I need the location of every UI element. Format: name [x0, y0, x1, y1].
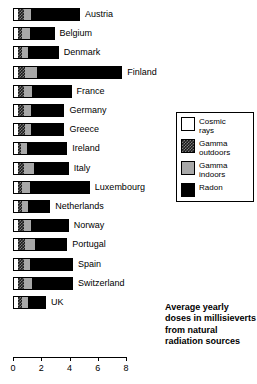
bar-row: France: [0, 83, 140, 102]
legend-item-gamma-outdoors: Gamma outdoors: [181, 139, 250, 157]
cosmic-rays-swatch-icon: [181, 117, 195, 131]
bar-row: Switzerland: [0, 275, 140, 294]
country-label-belgium: Belgium: [60, 26, 93, 41]
bar-row: Finland: [0, 64, 140, 83]
bar-segment-radon: [31, 9, 79, 20]
bar-ireland: [13, 142, 67, 155]
chart-caption: Average yearly doses in millisieverts fr…: [165, 302, 257, 348]
bar-row: Luxembourg: [0, 179, 140, 198]
bar-netherlands: [13, 200, 50, 213]
x-axis-tick: [13, 357, 14, 361]
bar-austria: [13, 8, 80, 21]
country-label-austria: Austria: [85, 7, 113, 22]
country-label-germany: Germany: [69, 103, 106, 118]
bar-row: Norway: [0, 217, 140, 236]
bar-denmark: [13, 46, 59, 59]
bar-segment-gamma_indoors: [22, 182, 29, 193]
bar-segment-gamma_outdoors: [18, 124, 25, 135]
country-label-france: France: [77, 84, 105, 99]
country-label-ireland: Ireland: [72, 141, 100, 156]
chart-legend: Cosmic rays Gamma outdoors Gamma indoors…: [176, 112, 254, 202]
bar-segment-radon: [28, 297, 45, 308]
bar-segment-gamma_indoors: [24, 220, 31, 231]
bar-row: Netherlands: [0, 198, 140, 217]
x-axis-tick-label: 0: [10, 363, 15, 374]
legend-label-gamma-indoors: Gamma indoors: [199, 161, 227, 179]
bar-segment-gamma_indoors: [24, 86, 32, 97]
bar-segment-radon: [30, 28, 54, 39]
country-label-spain: Spain: [78, 257, 101, 272]
chart-plot-area: AustriaBelgiumDenmarkFinlandFranceGerman…: [0, 0, 140, 355]
bar-row: Portugal: [0, 236, 140, 255]
bar-segment-gamma_indoors: [24, 105, 31, 116]
country-label-uk: UK: [51, 295, 64, 310]
bar-row: Italy: [0, 160, 140, 179]
bar-segment-radon: [30, 259, 72, 270]
bar-segment-radon: [31, 105, 63, 116]
bar-finland: [13, 66, 122, 79]
bar-portugal: [13, 238, 67, 251]
bar-row: UK: [0, 294, 140, 313]
bar-segment-radon: [28, 47, 58, 58]
bar-segment-gamma_outdoors: [18, 67, 25, 78]
bar-row: Germany: [0, 102, 140, 121]
x-axis-tick: [70, 357, 71, 361]
bar-belgium: [13, 27, 55, 40]
bar-france: [13, 85, 72, 98]
bar-luxembourg: [13, 181, 90, 194]
bar-row: Ireland: [0, 140, 140, 159]
bar-segment-gamma_indoors: [24, 9, 31, 20]
x-axis: 02468: [13, 357, 126, 379]
bar-norway: [13, 219, 69, 232]
bar-uk: [13, 296, 46, 309]
bar-segment-radon: [30, 182, 89, 193]
bar-segment-radon: [32, 278, 72, 289]
bar-row: Austria: [0, 6, 140, 25]
legend-label-gamma-outdoors: Gamma outdoors: [199, 139, 230, 157]
legend-label-cosmic-rays: Cosmic rays: [199, 117, 226, 135]
country-label-greece: Greece: [69, 122, 99, 137]
bar-segment-radon: [34, 163, 68, 174]
radon-swatch-icon: [181, 183, 195, 197]
legend-item-gamma-indoors: Gamma indoors: [181, 161, 250, 179]
x-axis-tick: [41, 357, 42, 361]
bar-segment-radon: [37, 67, 122, 78]
bar-row: Belgium: [0, 25, 140, 44]
bar-segment-gamma_indoors: [25, 67, 36, 78]
x-axis-tick-label: 6: [95, 363, 100, 374]
x-axis-tick: [126, 357, 127, 361]
bar-segment-radon: [35, 239, 66, 250]
bar-switzerland: [13, 277, 73, 290]
bar-segment-gamma_indoors: [22, 28, 29, 39]
bar-row: Spain: [0, 256, 140, 275]
bar-segment-radon: [27, 143, 67, 154]
bar-italy: [13, 162, 69, 175]
bar-segment-gamma_outdoors: [18, 239, 25, 250]
country-label-denmark: Denmark: [64, 45, 101, 60]
bar-germany: [13, 104, 64, 117]
bar-segment-radon: [31, 124, 63, 135]
legend-item-cosmic-rays: Cosmic rays: [181, 117, 250, 135]
bar-row: Greece: [0, 121, 140, 140]
country-label-switzerland: Switzerland: [78, 276, 125, 291]
bar-segment-radon: [28, 201, 49, 212]
bar-greece: [13, 123, 64, 136]
gamma-outdoors-swatch-icon: [181, 139, 195, 153]
bar-spain: [13, 258, 73, 271]
x-axis-tick-label: 8: [123, 363, 128, 374]
bar-segment-radon: [32, 86, 70, 97]
gamma-indoors-swatch-icon: [181, 161, 195, 175]
country-label-netherlands: Netherlands: [55, 199, 104, 214]
x-axis-tick-label: 4: [67, 363, 72, 374]
x-axis-tick: [98, 357, 99, 361]
bar-row: Denmark: [0, 44, 140, 63]
country-label-finland: Finland: [127, 65, 157, 80]
bar-segment-radon: [31, 220, 68, 231]
country-label-luxembourg: Luxembourg: [95, 180, 145, 195]
radiation-dose-chart: AustriaBelgiumDenmarkFinlandFranceGerman…: [0, 0, 257, 384]
bar-segment-gamma_indoors: [25, 239, 35, 250]
country-label-italy: Italy: [74, 161, 91, 176]
bar-segment-gamma_indoors: [24, 163, 34, 174]
country-label-norway: Norway: [74, 218, 105, 233]
bar-segment-gamma_indoors: [24, 278, 32, 289]
